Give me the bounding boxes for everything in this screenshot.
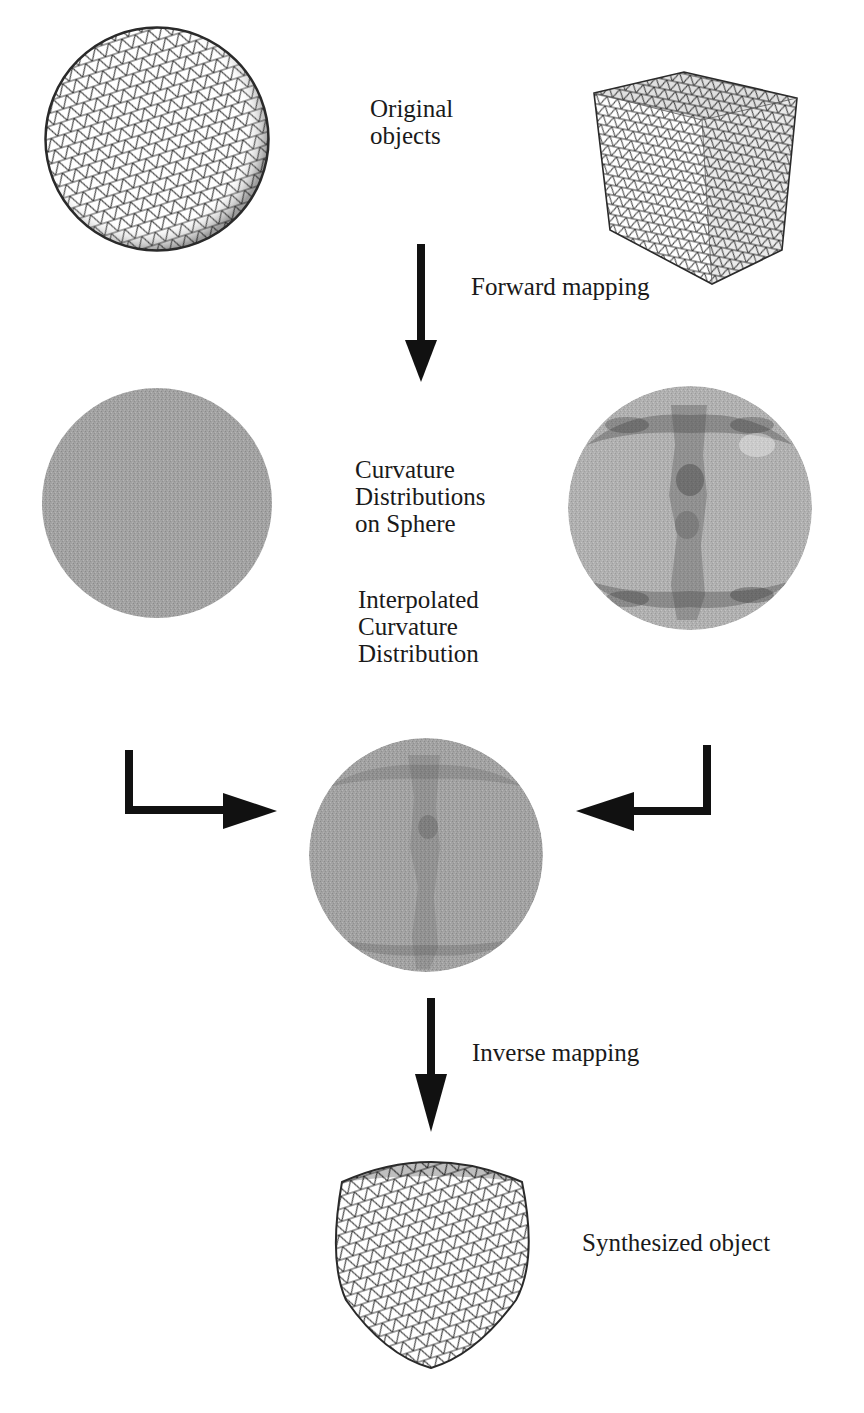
arrow-elbow-right-icon <box>120 748 280 832</box>
right-merge-arrow <box>572 743 716 833</box>
arrow-elbow-left-icon <box>572 743 716 833</box>
arrow-down-icon <box>414 998 448 1134</box>
forward-mapping-label: Forward mapping <box>471 273 649 300</box>
wireframe-cube-icon <box>572 50 802 290</box>
inverse-mapping-arrow <box>414 998 448 1134</box>
forward-mapping-arrow <box>404 244 438 384</box>
synthesized-object-label: Synthesized object <box>582 1229 770 1256</box>
curvature-disc-icon <box>41 387 273 619</box>
original-cube-mesh <box>572 50 802 290</box>
inverse-mapping-label: Inverse mapping <box>472 1039 639 1066</box>
curvature-disc-icon <box>308 737 544 973</box>
left-merge-arrow <box>120 748 280 832</box>
wireframe-rounded-cube-icon <box>326 1150 540 1372</box>
curvature-disc-icon <box>567 385 813 631</box>
original-objects-label: Original objects <box>370 95 453 149</box>
sphere-curvature-map <box>41 387 273 619</box>
synthesized-object-mesh <box>326 1150 540 1372</box>
wireframe-sphere-icon <box>44 26 272 254</box>
original-sphere-mesh <box>44 26 272 254</box>
cube-curvature-map <box>567 385 813 631</box>
interpolated-curvature-map <box>308 737 544 973</box>
arrow-down-icon <box>404 244 438 384</box>
interpolated-distribution-label: Interpolated Curvature Distribution <box>358 586 479 667</box>
curvature-distributions-label: Curvature Distributions on Sphere <box>355 456 486 537</box>
